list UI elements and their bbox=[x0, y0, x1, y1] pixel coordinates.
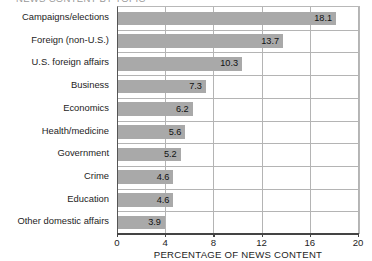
x-tick-label: 16 bbox=[304, 237, 315, 249]
x-tick-label: 12 bbox=[256, 237, 267, 249]
category-label: Economics bbox=[63, 97, 109, 120]
category-label: Business bbox=[71, 74, 109, 97]
bar-value-label: 7.3 bbox=[174, 79, 202, 94]
bar-row[interactable]: 5.6 bbox=[118, 121, 359, 144]
bar-value-label: 5.6 bbox=[153, 125, 181, 140]
category-label: Health/medicine bbox=[42, 120, 109, 143]
plot-area: 18.113.710.37.36.25.65.24.64.63.9 bbox=[117, 6, 360, 234]
bar-value-label: 3.9 bbox=[133, 215, 161, 230]
bar-row[interactable]: 5.2 bbox=[118, 143, 359, 166]
bar-value-label: 5.2 bbox=[149, 147, 177, 162]
bar-row[interactable]: 13.7 bbox=[118, 30, 359, 53]
bar-row[interactable]: 4.6 bbox=[118, 189, 359, 212]
category-label: Foreign (non-U.S.) bbox=[31, 29, 109, 52]
x-tick-label: 4 bbox=[163, 237, 168, 249]
bar-chart-figure: Campaigns/electionsForeign (non-U.S.)U.S… bbox=[0, 0, 372, 261]
bar-row[interactable]: 4.6 bbox=[118, 166, 359, 189]
category-label: Other domestic affairs bbox=[17, 210, 109, 233]
bar-row[interactable]: 7.3 bbox=[118, 75, 359, 98]
bar-value-label: 4.6 bbox=[141, 170, 169, 185]
bar-row[interactable]: 18.1 bbox=[118, 7, 359, 30]
bar-value-label: 18.1 bbox=[304, 11, 332, 26]
bar-row[interactable]: 3.9 bbox=[118, 211, 359, 234]
x-axis-line bbox=[117, 233, 359, 235]
bar-value-label: 10.3 bbox=[210, 56, 238, 71]
bar-row[interactable]: 6.2 bbox=[118, 98, 359, 121]
x-tick-label: 8 bbox=[211, 237, 216, 249]
category-label: Crime bbox=[84, 165, 109, 188]
bar-row[interactable]: 10.3 bbox=[118, 52, 359, 75]
bar-value-label: 13.7 bbox=[251, 34, 279, 49]
category-axis: Campaigns/electionsForeign (non-U.S.)U.S… bbox=[0, 6, 113, 233]
category-label: Government bbox=[57, 142, 109, 165]
bar-value-label: 4.6 bbox=[141, 193, 169, 208]
x-tick-label: 0 bbox=[114, 237, 119, 249]
x-tick-label: 20 bbox=[353, 237, 364, 249]
category-label: Education bbox=[67, 188, 109, 211]
category-label: Campaigns/elections bbox=[22, 6, 109, 29]
bar-value-label: 6.2 bbox=[161, 102, 189, 117]
category-label: U.S. foreign affairs bbox=[32, 51, 109, 74]
x-axis-title: PERCENTAGE OF NEWS CONTENT bbox=[117, 249, 359, 260]
